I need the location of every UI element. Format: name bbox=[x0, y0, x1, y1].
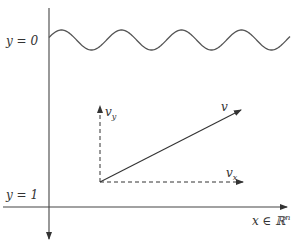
label-y1: y = 1 bbox=[5, 188, 38, 202]
wave-curve bbox=[49, 30, 290, 50]
label-vy: vy bbox=[105, 105, 117, 121]
label-y0: y = 0 bbox=[5, 34, 38, 48]
label-v: v bbox=[221, 100, 228, 114]
diagram: y = 0 y = 1 v vy vx x ∈ ℝn bbox=[0, 0, 291, 243]
vector-v bbox=[100, 110, 241, 182]
label-x-axis: x ∈ ℝn bbox=[252, 213, 290, 228]
label-vx: vx bbox=[226, 166, 238, 182]
